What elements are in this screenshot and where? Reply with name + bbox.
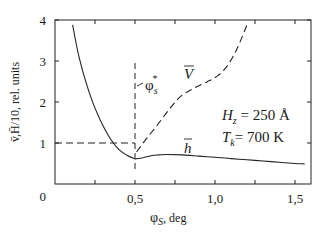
y-tick-label: 4 [40, 13, 47, 28]
series-line-1 [135, 155, 305, 164]
y-tick-label: 1 [40, 136, 47, 151]
x-tick-label: 0,5 [127, 191, 143, 206]
hz-annotation: Hz = 250 Å [221, 107, 290, 126]
y-tick-label: 0 [40, 189, 47, 204]
y-axis-label: v̄,H̄/10, rel. units [8, 62, 22, 143]
phi-star-leader [137, 83, 143, 86]
x-tick-label: 1,5 [287, 191, 303, 206]
h-series-label: h [184, 140, 192, 156]
phi-star-label: φs* [145, 73, 158, 96]
v-series-label: V [184, 66, 195, 82]
reference-lines [55, 63, 135, 172]
plot-frame [55, 20, 311, 184]
y-tick-label: 3 [40, 54, 47, 69]
axis-ticks [55, 20, 311, 184]
y-tick-label: 2 [40, 95, 47, 110]
tk-annotation: Tk= 700 K [222, 129, 284, 148]
x-tick-label: 1,0 [207, 191, 223, 206]
x-axis-label: φS, deg [150, 210, 186, 227]
series-line-0 [73, 25, 135, 159]
chart: 0,51,01,501234 φs* V h Hz = 250 Å Tk= 70… [0, 0, 329, 236]
